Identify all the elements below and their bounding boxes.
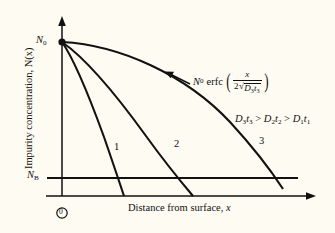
radicand-t-subscript: 3 — [256, 88, 259, 94]
formula-close-paren: ) — [264, 73, 268, 91]
formula-prefix-symbol: N — [193, 77, 200, 88]
curve-label-3: 3 — [259, 136, 264, 147]
x-axis-variable: x — [226, 202, 231, 213]
curve-2 — [62, 42, 193, 196]
formula-function-name: erfc — [207, 77, 223, 88]
formula-numerator: x — [243, 70, 251, 80]
surface-concentration-label: N0 — [36, 35, 47, 47]
origin-label: 0 — [59, 208, 63, 216]
ineq-term2-t-sub: 2 — [278, 118, 282, 126]
ineq-term1-t-sub: 3 — [249, 118, 253, 126]
background-concentration-subscript: B — [34, 174, 39, 182]
ineq-term1-D: D — [235, 113, 243, 124]
formula-leader-arrow — [165, 72, 190, 85]
formula-prefix-subscript: 0 — [200, 78, 204, 85]
curve-1 — [62, 42, 124, 196]
x-axis-arrowhead — [306, 192, 316, 200]
formula-open-paren: ( — [226, 73, 230, 91]
surface-concentration-subscript: 0 — [43, 39, 47, 47]
background-concentration-label: NB — [27, 170, 39, 182]
y-axis-title: Impurity concentration, N(x) — [24, 28, 35, 188]
background-concentration-symbol: N — [27, 169, 34, 180]
x-axis-title-text: Distance from surface, — [128, 202, 226, 213]
ineq-operator-1: > — [255, 113, 261, 124]
y-axis-arrowhead — [58, 16, 66, 26]
surface-concentration-symbol: N — [36, 34, 43, 45]
curve-label-2: 2 — [174, 139, 179, 150]
x-axis-title: Distance from surface, x — [128, 203, 231, 214]
formula-denominator-coeff: 2 — [234, 82, 239, 91]
diffusion-profile-figure: Impurity concentration, N(x) Distance fr… — [0, 0, 335, 233]
erfc-formula-annotation: N0 erfc ( x 2 √ D3t3 ) — [193, 70, 270, 94]
dt-inequality-annotation: D3t3 > D2t2 > D1t1 — [235, 114, 310, 126]
ineq-term3-t-sub: 1 — [307, 118, 311, 126]
ineq-operator-2: > — [284, 113, 290, 124]
x-axis — [46, 192, 316, 200]
formula-denominator: 2 √ D3t3 — [233, 81, 262, 94]
formula-fraction: x 2 √ D3t3 — [233, 70, 262, 94]
radical-body: D3t3 — [244, 83, 261, 94]
formula-radical: √ D3t3 — [239, 82, 261, 94]
curve-label-1: 1 — [114, 142, 119, 153]
